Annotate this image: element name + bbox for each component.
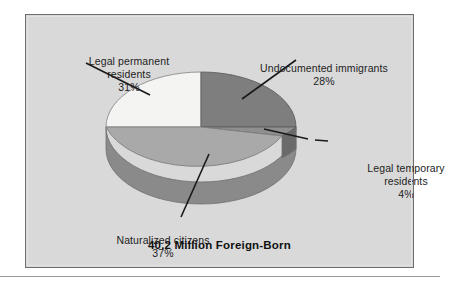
slice-label-legal-temporary-percent: 4% <box>356 188 449 201</box>
pie-slice-naturalized[interactable] <box>106 127 282 166</box>
slice-label-undocumented-text: Undocumented immigrants <box>260 62 388 74</box>
slice-label-undocumented: Undocumented immigrants 28% <box>244 49 404 101</box>
slice-label-undocumented-percent: 28% <box>244 75 404 88</box>
chart-panel: Legal permanent residents 31% Undocument… <box>25 14 414 268</box>
slice-label-legal-temporary: Legal temporary residents 4% <box>356 149 449 214</box>
slice-label-legal-permanent-percent: 31% <box>64 81 194 94</box>
slice-label-legal-permanent-text: Legal permanent residents <box>89 55 169 80</box>
chart-title: 40.2 Million Foreign-Born <box>25 239 414 251</box>
figure-divider-rule <box>0 276 440 277</box>
slice-label-legal-temporary-text: Legal temporary residents <box>367 162 444 187</box>
leader-line-legal-temporary-tick <box>315 140 328 141</box>
slice-label-legal-permanent: Legal permanent residents 31% <box>64 42 194 107</box>
